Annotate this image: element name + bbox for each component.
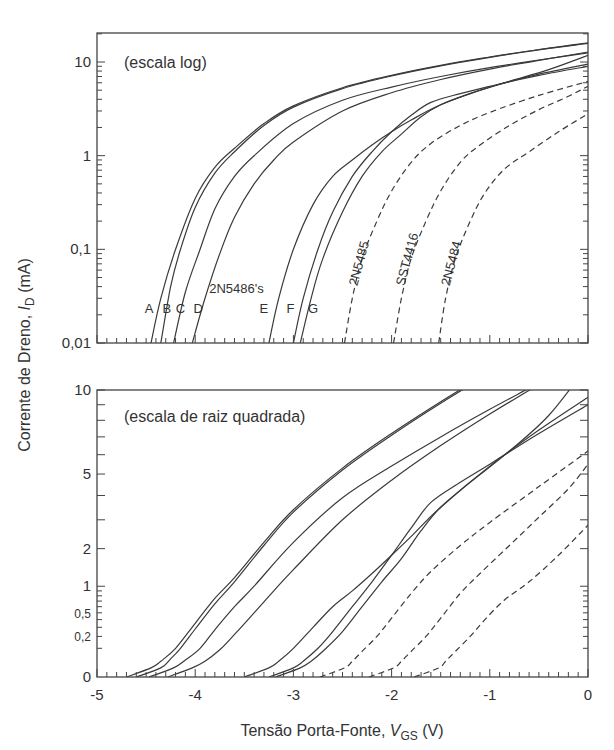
x-axis-tick-labels: -5-4-3-2-10 (90, 686, 592, 703)
curve-sqrt-2n5486-f (269, 405, 588, 677)
curve-label: F (286, 301, 294, 316)
curve-label: A (145, 301, 154, 316)
log-scale-panel: 1010,10,01 (escala log) ABCD2N5486'sEFG2… (62, 33, 588, 351)
y-tick-label: 2 (83, 540, 91, 557)
y-tick-label: 5 (83, 465, 91, 482)
x-tick-label: -3 (287, 686, 300, 703)
curve-sqrt-sst4416 (369, 464, 588, 677)
curve-label: 2N5484 (438, 240, 464, 288)
sqrt-axis-ticks: 105210,50,20 (74, 381, 588, 685)
x-tick-label: -4 (189, 686, 202, 703)
curve-sqrt-2n5486-a (127, 314, 589, 677)
sqrt-scale-curves (127, 314, 589, 677)
curve-log-sst4416 (394, 86, 588, 343)
y-tick-label: 0,01 (62, 334, 91, 351)
y-tick-label: 0,5 (74, 607, 91, 621)
curve-label: SST4416 (393, 231, 422, 287)
curve-sqrt-2n5486-d (168, 352, 588, 677)
y-tick-label: 1 (83, 147, 91, 164)
y-tick-label: 1 (83, 577, 91, 594)
curve-log-2n5485 (345, 81, 589, 343)
y-tick-label: 10 (74, 53, 91, 70)
sqrt-scale-label: (escala de raiz quadrada) (124, 408, 305, 425)
curve-label: D (193, 301, 202, 316)
sqrt-plot-frame (97, 390, 588, 677)
curve-label: E (260, 301, 269, 316)
y-tick-label: 0,2 (74, 630, 91, 644)
y-axis-title: Corrente de Dreno, ID (mA) (16, 258, 37, 452)
jfet-transfer-chart: 1010,10,01 (escala log) ABCD2N5486'sEFG2… (0, 0, 614, 750)
curve-sqrt-2n5486-b (136, 316, 588, 677)
curve-log-2n5486-d (192, 52, 588, 343)
curve-label: 2N5486's (209, 281, 264, 296)
curve-sqrt-2n5484 (414, 525, 588, 677)
curve-label: B (162, 301, 171, 316)
curve-log-2n5484 (439, 114, 588, 343)
y-tick-label: 0 (83, 668, 91, 685)
curve-labels: ABCD2N5486'sEFG2N5485SST44162N5484 (145, 231, 465, 316)
curve-label: C (176, 301, 185, 316)
x-axis-title: Tensão Porta-Fonte, VGS (V) (240, 722, 443, 743)
curve-log-2n5486-b (161, 43, 588, 343)
x-tick-label: -5 (90, 686, 103, 703)
y-tick-label: 0,1 (70, 240, 91, 257)
x-tick-label: -1 (483, 686, 496, 703)
curve-label: G (308, 301, 318, 316)
x-tick-label: 0 (584, 686, 592, 703)
sqrt-scale-panel: 105210,50,20 (escala de raiz quadrada) (74, 314, 588, 685)
curve-log-2n5486-a (151, 43, 588, 343)
log-scale-label: (escala log) (124, 54, 207, 71)
curve-label: 2N5485 (346, 240, 372, 288)
curve-sqrt-2n5486-c (149, 356, 588, 677)
x-tick-label: -2 (385, 686, 398, 703)
y-tick-label: 10 (74, 381, 91, 398)
log-scale-curves (151, 43, 588, 343)
